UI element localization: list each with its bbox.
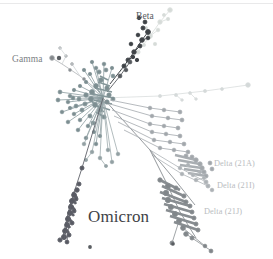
clade-label-gamma: Gamma [12, 55, 43, 65]
phylogenetic-tree-figure: Beta Gamma Omicron Delta (21A) Delta (21… [0, 0, 273, 259]
clade-label-delta-21j: Delta (21J) [204, 208, 242, 216]
clade-label-omicron: Omicron [88, 208, 149, 225]
clade-label-delta-21a: Delta (21A) [214, 160, 255, 168]
clade-label-beta: Beta [136, 12, 154, 22]
clade-gamma [50, 47, 100, 92]
clade-label-delta-21i: Delta (21I) [217, 182, 255, 190]
delta-trunk [103, 98, 195, 205]
clade-long-right-branch [103, 83, 250, 102]
clade-beta [110, 16, 150, 84]
clade-delta-21a [110, 100, 214, 178]
